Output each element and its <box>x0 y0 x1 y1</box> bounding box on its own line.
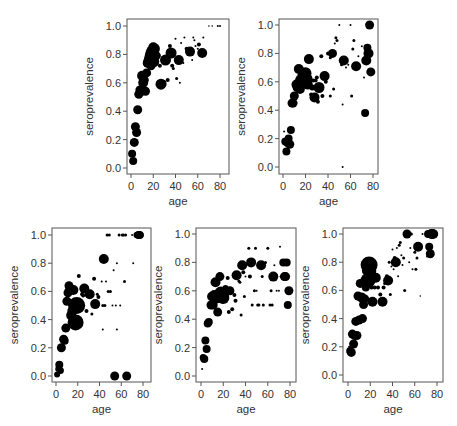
data-point <box>304 54 314 64</box>
data-point <box>410 233 413 236</box>
x-tick-label: 80 <box>431 388 443 400</box>
data-point <box>110 372 119 381</box>
data-point <box>416 257 419 260</box>
data-point <box>203 345 211 353</box>
data-point <box>281 272 290 281</box>
data-point <box>279 246 281 248</box>
data-point <box>192 36 194 38</box>
data-point <box>227 310 231 314</box>
data-point <box>320 94 324 98</box>
data-point <box>357 55 359 57</box>
data-point <box>320 71 330 81</box>
y-tick-label: 0.2 <box>31 342 46 354</box>
data-point <box>398 244 401 247</box>
data-point <box>132 128 141 137</box>
data-point <box>205 318 213 326</box>
data-point <box>90 313 93 316</box>
data-point <box>334 43 336 45</box>
data-point <box>85 289 95 299</box>
data-point <box>378 293 382 297</box>
data-point <box>113 269 115 271</box>
data-point <box>234 299 238 303</box>
data-point <box>328 49 337 58</box>
y-tick-label: 0.8 <box>322 256 337 268</box>
data-point <box>129 157 137 165</box>
data-point <box>131 234 133 236</box>
data-point <box>262 304 265 307</box>
data-point <box>141 87 150 96</box>
data-point <box>397 275 399 277</box>
y-tick-label: 1.0 <box>322 228 337 240</box>
x-tick-label: 80 <box>284 388 296 400</box>
data-point <box>237 260 247 270</box>
data-point <box>383 276 393 286</box>
data-point <box>273 264 275 266</box>
data-point <box>168 44 172 48</box>
data-point <box>191 59 193 61</box>
scatter-panel-top-right: 0.00.20.40.60.81.0020406080ageseropreval… <box>235 19 379 207</box>
x-axis-label: age <box>236 403 255 415</box>
data-point <box>390 265 392 267</box>
data-point <box>409 247 411 249</box>
data-point <box>412 268 414 270</box>
data-point <box>68 297 85 314</box>
y-tick-label: 0.6 <box>258 76 273 88</box>
y-tick-label: 0.2 <box>175 342 190 354</box>
data-point <box>264 261 267 264</box>
x-tick-label: 40 <box>322 180 334 192</box>
data-point <box>253 289 256 292</box>
data-point <box>243 295 246 298</box>
data-point <box>345 67 347 69</box>
y-tick-label: 1.0 <box>175 228 190 240</box>
data-point <box>413 251 416 254</box>
y-axis-label: seroprevalence <box>235 57 247 136</box>
y-tick-label: 0.0 <box>31 370 46 382</box>
data-point <box>102 329 104 331</box>
data-point <box>270 289 273 292</box>
data-point <box>147 61 156 70</box>
y-tick-label: 0.4 <box>258 104 273 116</box>
data-point <box>109 290 112 293</box>
data-point <box>351 48 354 51</box>
data-point <box>195 45 197 47</box>
data-point <box>122 372 131 381</box>
scatter-panel-bottom-right: 0.00.20.40.60.81.0020406080ageseropreval… <box>299 228 443 415</box>
data-point <box>155 53 161 59</box>
data-point <box>158 64 162 68</box>
data-point <box>232 293 236 297</box>
data-point <box>283 131 285 133</box>
data-point <box>418 243 420 245</box>
data-point <box>92 277 96 281</box>
data-point <box>61 337 69 345</box>
data-point <box>201 368 203 370</box>
data-point <box>232 270 242 280</box>
scatter-panel-top-left: 0.00.20.40.60.81.0020406080ageseropreval… <box>83 19 229 207</box>
y-tick-label: 0.8 <box>31 257 46 269</box>
data-point <box>351 61 361 71</box>
data-point <box>215 272 224 281</box>
data-point <box>116 262 118 264</box>
y-tick-label: 0.6 <box>31 285 46 297</box>
data-point <box>257 304 260 307</box>
data-point <box>314 82 325 93</box>
data-point <box>391 257 401 267</box>
data-point <box>339 56 349 66</box>
y-axis-label: seroprevalence <box>152 266 164 345</box>
data-point <box>408 261 410 263</box>
data-point <box>342 104 344 106</box>
y-tick-label: 0.2 <box>258 133 273 145</box>
y-tick-label: 0.6 <box>106 77 121 89</box>
data-point <box>96 295 100 299</box>
data-point <box>382 286 386 290</box>
data-point <box>358 314 367 323</box>
x-tick-label: 60 <box>344 180 356 192</box>
data-point <box>422 233 424 235</box>
data-point <box>112 305 114 307</box>
data-point <box>160 80 166 86</box>
data-point <box>402 257 405 260</box>
data-point <box>371 273 381 283</box>
data-point <box>201 337 209 345</box>
y-tick-label: 0.0 <box>175 370 190 382</box>
data-point <box>226 276 230 280</box>
data-point <box>128 150 136 158</box>
